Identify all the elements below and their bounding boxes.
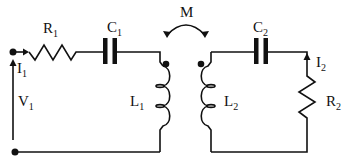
inductor-l2-loop-2 <box>207 105 215 108</box>
arrowhead-m-right <box>201 31 209 38</box>
label-l2: L2 <box>224 93 238 112</box>
dot-l2 <box>198 61 205 68</box>
resistor-r2 <box>211 72 315 152</box>
label-v1: V1 <box>18 93 34 112</box>
circuit-diagram: M R1 C1 I1 V1 L1 C2 I2 L2 R2 <box>0 0 348 164</box>
arrowhead-i1 <box>23 49 29 56</box>
wire-primary-top-right <box>117 52 163 66</box>
label-m: M <box>180 4 193 20</box>
label-i1: I1 <box>17 60 27 79</box>
arrowhead-i2 <box>304 53 311 60</box>
capacitor-c2-plate-left <box>254 38 259 64</box>
inductor-l2 <box>201 52 211 152</box>
arrowhead-m-left <box>163 31 171 38</box>
label-i2: I2 <box>316 54 326 73</box>
label-c2: C2 <box>253 19 268 38</box>
dot-l1 <box>163 61 170 68</box>
capacitor-c2-plate-right <box>264 38 269 64</box>
secondary-loop <box>198 38 315 152</box>
inductor-l1 <box>160 66 170 152</box>
inductor-l1-loop-2 <box>156 105 164 108</box>
label-l1: L1 <box>130 93 144 112</box>
mutual-arc <box>167 25 205 35</box>
capacitor-c1-plate-right <box>113 38 118 64</box>
wire-secondary-top-right <box>268 52 307 72</box>
mutual-inductance <box>163 25 209 38</box>
capacitor-c1-plate-left <box>103 38 108 64</box>
inductor-l1-loop-1 <box>156 85 164 88</box>
primary-loop <box>10 38 170 156</box>
label-r2: R2 <box>326 93 341 112</box>
arrowhead-v1 <box>10 59 17 66</box>
resistor-r1 <box>29 45 104 60</box>
label-r1: R1 <box>43 20 58 39</box>
label-c1: C1 <box>107 19 122 38</box>
inductor-l2-loop-1 <box>207 85 215 88</box>
terminal-top-left <box>10 49 17 56</box>
